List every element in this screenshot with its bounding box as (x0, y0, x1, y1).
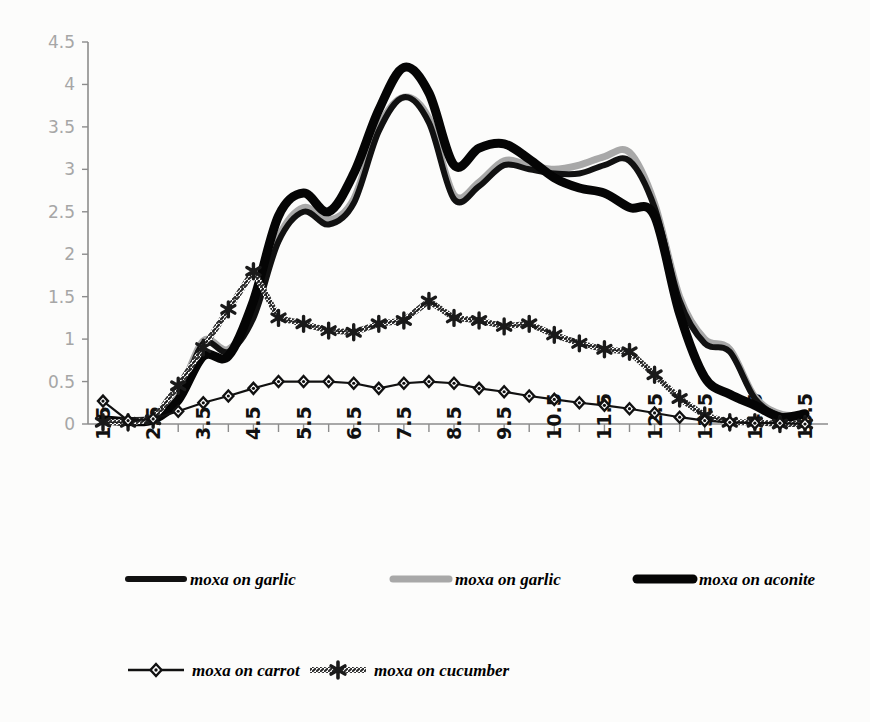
x-tick-label: 8.5 (443, 406, 465, 440)
diamond-marker-center (227, 394, 230, 397)
x-tick-label: 9.5 (493, 406, 515, 440)
legend-item[interactable]: moxa on garlic (128, 570, 296, 589)
series-thick-black-line (103, 67, 805, 422)
diamond-marker-center (778, 422, 781, 425)
y-tick-label: 3 (64, 159, 75, 179)
diamond-marker-center (177, 410, 180, 413)
y-tick-label: 2 (64, 244, 75, 264)
legend-item-label: moxa on garlic (190, 570, 296, 589)
diamond-marker-center (202, 401, 205, 404)
legend-item[interactable]: moxa on cucumber (310, 661, 509, 680)
diamond-marker-center (678, 416, 681, 419)
y-tick-label: 3.5 (48, 117, 75, 137)
chart-figure: 00.511.522.533.544.5 1.52.53.54.55.56.57… (0, 0, 870, 722)
diamond-marker-center (327, 380, 330, 383)
diamond-marker-center (377, 387, 380, 390)
legend-item[interactable]: moxa on carrot (128, 661, 301, 680)
diamond-marker-center (628, 407, 631, 410)
series-layer (97, 67, 812, 431)
x-tick-label: 4.5 (242, 406, 264, 440)
diamond-marker-center (277, 380, 280, 383)
diamond-marker-center (402, 382, 405, 385)
diamond-marker-center (101, 399, 104, 402)
x-tick-label: 6.5 (343, 406, 365, 440)
legend-diamond-center (154, 668, 157, 671)
diamond-marker-center (503, 390, 506, 393)
y-tick-label: 4 (64, 74, 75, 94)
series-line (103, 67, 805, 422)
diamond-marker-center (578, 401, 581, 404)
legend-item[interactable]: moxa on aconite (637, 570, 816, 589)
diamond-marker-center (452, 382, 455, 385)
y-tick-label: 1.5 (48, 287, 75, 307)
legend-item-label: moxa on aconite (699, 570, 816, 589)
diamond-marker-center (427, 380, 430, 383)
diamond-marker-center (477, 387, 480, 390)
chart-legend: moxa on garlicmoxa on garlicmoxa on acon… (128, 570, 816, 680)
x-tick-label: 7.5 (393, 406, 415, 440)
y-tick-label: 0 (64, 414, 75, 434)
diamond-marker-center (603, 404, 606, 407)
y-tick-label: 2.5 (48, 202, 75, 222)
legend-item-label: moxa on carrot (192, 661, 301, 680)
diamond-marker-center (753, 422, 756, 425)
diamond-marker-center (302, 380, 305, 383)
y-tick-label: 4.5 (48, 32, 75, 52)
legend-item-label: moxa on cucumber (374, 661, 509, 680)
y-axis: 00.511.522.533.544.5 (48, 32, 88, 434)
y-tick-label: 0.5 (48, 372, 75, 392)
diamond-marker-center (653, 411, 656, 414)
diamond-marker-center (152, 417, 155, 420)
legend-item[interactable]: moxa on garlic (393, 570, 561, 589)
y-tick-label: 1 (64, 329, 75, 349)
x-tick-label: 3.5 (192, 406, 214, 440)
diamond-marker-center (553, 398, 556, 401)
diamond-marker-center (528, 394, 531, 397)
diamond-marker-center (803, 422, 806, 425)
diamond-marker-center (252, 387, 255, 390)
x-tick-label: 5.5 (293, 406, 315, 440)
diamond-marker-center (126, 419, 129, 422)
diamond-marker-center (352, 382, 355, 385)
diamond-marker-center (703, 419, 706, 422)
line-chart-svg: 00.511.522.533.544.5 1.52.53.54.55.56.57… (0, 0, 870, 722)
diamond-marker-center (728, 421, 731, 424)
legend-item-label: moxa on garlic (455, 570, 561, 589)
